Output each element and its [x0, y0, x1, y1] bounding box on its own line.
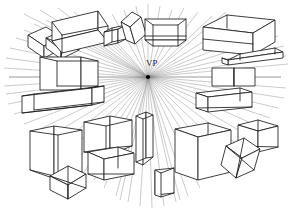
box-top-center-open: [145, 19, 186, 46]
box-lower-mid-cube-b: [88, 147, 134, 180]
box-mid-left-square: [40, 57, 98, 90]
box-top-left-large: [52, 11, 108, 53]
vanishing-point-marker: [146, 75, 150, 79]
drawing-canvas: VP: [0, 0, 290, 211]
box-bottom-center-small: [155, 168, 174, 197]
box-lower-right-large: [175, 123, 231, 180]
box-mid-right-small: [212, 68, 255, 86]
box-mid-right-beam: [196, 88, 252, 112]
box-top-right-large: [203, 15, 275, 55]
wireframe-box-group: [22, 11, 283, 199]
vanishing-point-label: VP: [146, 58, 158, 68]
box-lower-center-tall: [136, 112, 153, 165]
perspective-drawing-figure: VP: [0, 0, 290, 211]
